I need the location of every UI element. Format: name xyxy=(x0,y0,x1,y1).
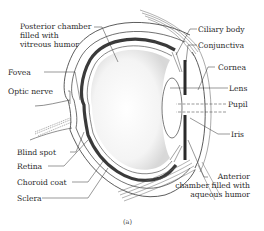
label-conjunctiva: Conjunctiva xyxy=(198,41,244,50)
vitreous-humor xyxy=(91,50,170,170)
label-line: vitreous humor xyxy=(20,40,91,49)
label-text: Choroid coat xyxy=(17,178,67,187)
label-text: Iris xyxy=(231,130,244,139)
label-text: Pupil xyxy=(228,100,248,109)
label-pupil: Pupil xyxy=(228,100,248,109)
cornea-curve xyxy=(192,52,205,168)
label-text: Sclera xyxy=(17,194,42,203)
figure-caption: (a) xyxy=(123,218,132,226)
label-optic-nerve: Optic nerve xyxy=(8,87,53,96)
label-line: aqueous humor xyxy=(175,190,250,199)
label-text: Cornea xyxy=(218,63,246,72)
optic-nerve-shape xyxy=(30,100,72,140)
lens-shape xyxy=(162,78,182,138)
label-retina: Retina xyxy=(17,162,42,171)
label-anterior-chamber: Anterior chamber filled with aqueous hum… xyxy=(175,172,250,199)
label-fovea: Fovea xyxy=(8,68,31,77)
label-line: Anterior xyxy=(175,172,250,181)
label-text: Retina xyxy=(17,162,42,171)
label-text: Conjunctiva xyxy=(198,41,244,50)
label-text: Blind spot xyxy=(17,148,56,157)
label-line: Posterior chamber xyxy=(20,22,91,31)
label-sclera: Sclera xyxy=(17,194,42,203)
label-choroid-coat: Choroid coat xyxy=(17,178,67,187)
label-cornea: Cornea xyxy=(218,63,246,72)
label-line: filled with xyxy=(20,31,91,40)
label-iris: Iris xyxy=(231,130,244,139)
label-text: Ciliary body xyxy=(198,25,245,34)
label-line: chamber filled with xyxy=(175,181,250,190)
label-posterior-chamber: Posterior chamber filled with vitreous h… xyxy=(20,22,91,49)
label-blind-spot: Blind spot xyxy=(17,148,56,157)
label-text: Lens xyxy=(229,84,247,93)
label-text: Optic nerve xyxy=(8,87,53,96)
label-lens: Lens xyxy=(229,84,247,93)
label-text: Fovea xyxy=(8,68,31,77)
label-ciliary-body: Ciliary body xyxy=(198,25,245,34)
